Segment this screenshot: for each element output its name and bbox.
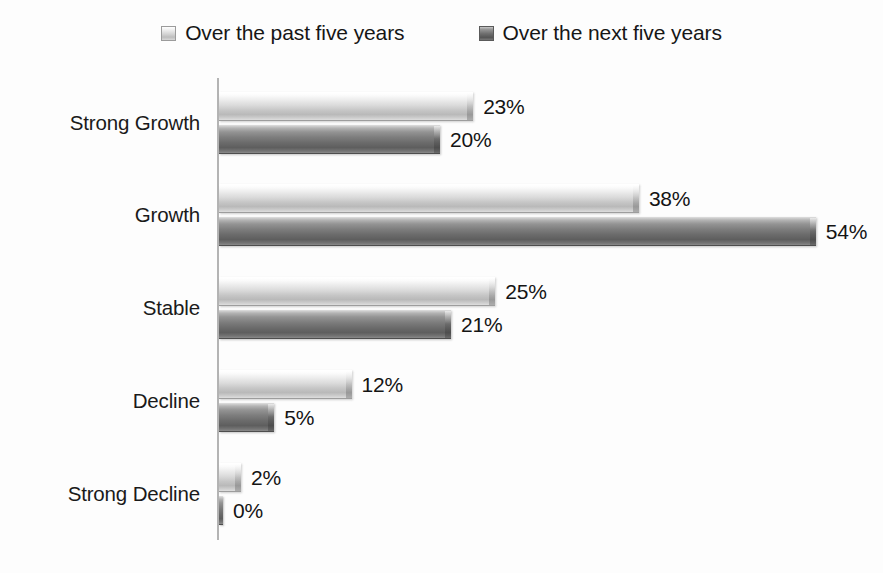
bar-group-next-strong-growth: 20% [219, 125, 491, 154]
category-label-strong-decline: Strong Decline [68, 482, 200, 506]
bar-chart: Over the past five years Over the next f… [0, 0, 883, 573]
legend-label-next: Over the next five years [503, 21, 722, 45]
bar-past-stable[interactable] [219, 277, 495, 306]
category-label-growth: Growth [135, 203, 200, 227]
bar-value-next-strong-growth: 20% [450, 129, 491, 150]
bar-group-next-growth: 54% [219, 217, 867, 246]
bar-group-next-strong-decline: 0% [219, 496, 263, 525]
bar-group-past-strong-decline: 2% [219, 463, 281, 492]
bar-past-strong-growth[interactable] [219, 92, 473, 121]
bar-value-past-stable: 25% [505, 281, 546, 302]
bar-past-decline[interactable] [219, 370, 352, 399]
chart-row-growth: Growth 38% 54% [0, 170, 883, 260]
bar-past-growth[interactable] [219, 184, 639, 213]
bar-value-next-decline: 5% [284, 407, 314, 428]
chart-row-decline: Decline 12% 5% [0, 356, 883, 446]
legend-item-next: Over the next five years [479, 21, 722, 45]
chart-row-stable: Stable 25% 21% [0, 263, 883, 353]
chart-row-strong-growth: Strong Growth 23% 20% [0, 78, 883, 168]
legend-item-past: Over the past five years [161, 21, 404, 45]
chart-row-strong-decline: Strong Decline 2% 0% [0, 449, 883, 539]
legend-swatch-icon-next [479, 26, 494, 41]
bar-value-next-strong-decline: 0% [233, 500, 263, 521]
category-label-decline: Decline [133, 389, 200, 413]
chart-legend: Over the past five years Over the next f… [0, 10, 883, 56]
bar-group-next-decline: 5% [219, 403, 314, 432]
bar-value-past-strong-decline: 2% [251, 467, 281, 488]
bar-value-past-growth: 38% [649, 188, 690, 209]
bar-group-past-decline: 12% [219, 370, 403, 399]
bar-value-past-decline: 12% [362, 374, 403, 395]
bar-next-strong-decline[interactable] [219, 496, 223, 525]
bar-group-next-stable: 21% [219, 310, 502, 339]
legend-swatch-icon-past [161, 26, 176, 41]
bar-group-past-growth: 38% [219, 184, 690, 213]
bar-value-past-strong-growth: 23% [483, 96, 524, 117]
category-label-stable: Stable [143, 296, 200, 320]
bar-next-strong-growth[interactable] [219, 125, 440, 154]
bar-next-stable[interactable] [219, 310, 451, 339]
bar-value-next-growth: 54% [826, 221, 867, 242]
bar-next-decline[interactable] [219, 403, 274, 432]
category-label-strong-growth: Strong Growth [70, 111, 200, 135]
bar-group-past-strong-growth: 23% [219, 92, 525, 121]
bar-past-strong-decline[interactable] [219, 463, 241, 492]
bar-group-past-stable: 25% [219, 277, 547, 306]
legend-label-past: Over the past five years [185, 21, 404, 45]
bar-next-growth[interactable] [219, 217, 816, 246]
bar-value-next-stable: 21% [461, 314, 502, 335]
plot-area: Strong Growth 23% 20% Growth 38% 54% [0, 62, 883, 562]
